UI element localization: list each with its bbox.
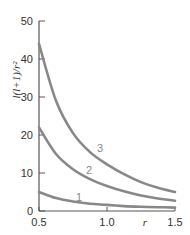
y-tick-label: 30 bbox=[21, 91, 33, 103]
curve-label-1: 1 bbox=[76, 191, 82, 203]
y-tick-label: 40 bbox=[21, 53, 33, 65]
y-tick-label: 20 bbox=[21, 129, 33, 141]
curves bbox=[39, 44, 175, 208]
x-tick-label: 1.0 bbox=[99, 216, 114, 228]
x-tick-label: 0.5 bbox=[31, 216, 46, 228]
curve-label-2: 2 bbox=[86, 164, 92, 176]
y-axis-label: l(l+1)/r² bbox=[10, 61, 23, 99]
y-tick-label: 10 bbox=[21, 167, 33, 179]
axes: 010203040500.51.01.5 bbox=[21, 15, 183, 228]
y-tick-label: 50 bbox=[21, 15, 33, 27]
curve-1 bbox=[39, 192, 175, 208]
x-axis-label: r bbox=[143, 216, 148, 228]
curve-3 bbox=[39, 44, 175, 192]
x-tick-label: 1.5 bbox=[167, 216, 182, 228]
chart: 010203040500.51.01.5 123 l(l+1)/r² r bbox=[0, 0, 190, 235]
curve-label-3: 3 bbox=[97, 142, 103, 154]
